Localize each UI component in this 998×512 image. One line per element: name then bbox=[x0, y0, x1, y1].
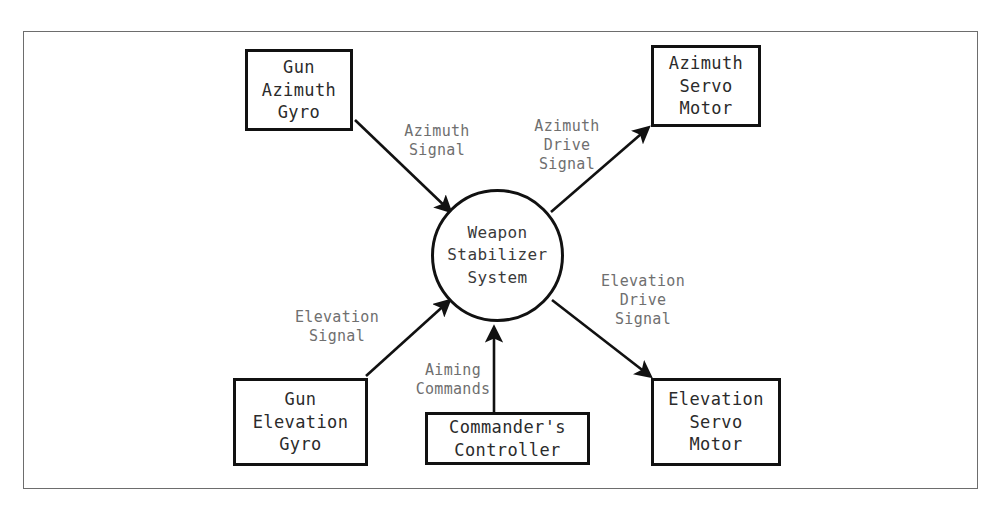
entity-commanders-controller[interactable]: Commander's Controller bbox=[425, 412, 590, 465]
entity-elevation-servo-motor[interactable]: Elevation Servo Motor bbox=[651, 378, 781, 466]
flow-label-aiming-commands: Aiming Commands bbox=[398, 361, 508, 399]
diagram-canvas: Gun Azimuth Gyro Azimuth Servo Motor Wea… bbox=[0, 0, 998, 512]
entity-gun-elevation-gyro[interactable]: Gun Elevation Gyro bbox=[233, 378, 368, 466]
flow-label-elevation-signal: Elevation Signal bbox=[277, 308, 397, 346]
flow-label-azimuth-drive-signal: Azimuth Drive Signal bbox=[512, 117, 622, 175]
flow-label-elevation-drive-signal: Elevation Drive Signal bbox=[583, 272, 703, 330]
flow-label-azimuth-signal: Azimuth Signal bbox=[382, 122, 492, 160]
entity-gun-azimuth-gyro[interactable]: Gun Azimuth Gyro bbox=[245, 49, 353, 131]
process-weapon-stabilizer-system[interactable]: Weapon Stabilizer System bbox=[431, 189, 564, 322]
entity-azimuth-servo-motor[interactable]: Azimuth Servo Motor bbox=[651, 45, 761, 127]
